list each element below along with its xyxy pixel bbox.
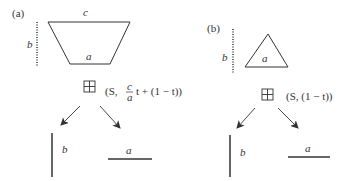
panel-a: (a) b c a (S, c a t + (1 − t)) b a [12,6,182,177]
arrow-right [278,108,298,128]
formula-a: (S, c a t + (1 − t)) [105,80,182,103]
bottom-side-label: a [86,50,92,62]
result-vertical-label: b [62,143,68,155]
panel-a-label: (a) [12,7,25,20]
result-horizontal-label: a [126,144,132,156]
result-vertical-label: b [240,146,246,158]
panel-b: (b) b a (S, (1 − t)) b a [207,22,333,177]
arrow-right [100,106,120,128]
height-label: b [222,51,228,63]
diagram-canvas: (a) b c a (S, c a t + (1 − t)) b a (b) b [0,0,350,181]
result-horizontal-label: a [305,142,311,154]
grid-icon [84,81,95,92]
arrow-left [237,108,255,128]
height-label: b [27,38,33,50]
panel-b-label: (b) [207,22,220,35]
grid-icon [262,89,273,100]
formula-suffix: t + (1 − t)) [136,85,182,98]
formula-prefix: (S, [105,85,118,98]
fraction-denominator: a [127,91,133,103]
arrow-left [61,106,80,125]
formula-b: (S, (1 − t)) [286,90,333,103]
top-side-label: c [83,6,88,18]
base-label: a [262,52,268,64]
